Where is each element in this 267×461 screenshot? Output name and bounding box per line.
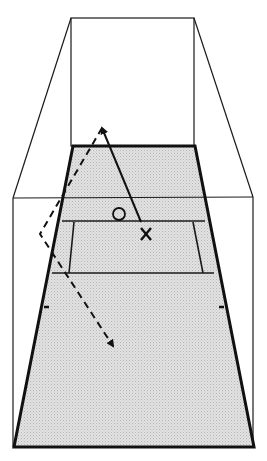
- right-wall-top-edge: [194, 18, 253, 197]
- left-wall-top-edge: [13, 18, 71, 198]
- court-floor: [14, 146, 254, 447]
- back-wall-top-line: [13, 197, 253, 198]
- front-wall: [71, 18, 194, 146]
- court-diagram: [0, 0, 267, 461]
